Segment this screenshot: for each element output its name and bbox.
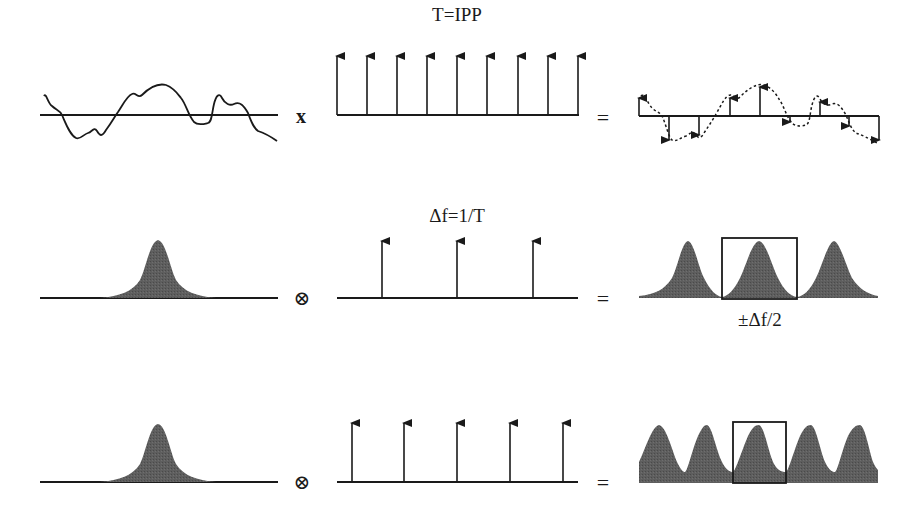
row1-input-signal (40, 84, 278, 141)
equals-operator: = (597, 286, 609, 312)
row1-pulse-train (337, 56, 579, 115)
frequency-spacing-label: Δf=1/T (429, 205, 485, 227)
row1-dashed-signal (641, 85, 877, 143)
row1-signal-curve (44, 84, 277, 141)
convolve-operator-icon: ⊗ (294, 470, 311, 494)
row2-input-spectrum (40, 240, 278, 298)
row2-replicated-spectra (639, 238, 878, 299)
equals-operator: = (597, 105, 609, 131)
row3-spectral-comb (337, 423, 578, 482)
diagram-canvas (0, 0, 911, 511)
pulse-period-label: T=IPP (432, 4, 482, 26)
row3-spectra-fill (639, 425, 878, 483)
row2-spectral-comb (337, 241, 578, 298)
nyquist-interval-label: ±Δf/2 (738, 309, 782, 331)
equals-operator: = (597, 470, 609, 496)
row1-sampled-result (639, 85, 879, 143)
row3-spectrum-peak (100, 424, 216, 482)
multiply-operator: x (296, 105, 306, 128)
row2-spectra-fill (639, 241, 878, 298)
convolve-operator-icon: ⊗ (294, 286, 311, 310)
row3-input-spectrum (40, 424, 278, 482)
row2-spectrum-peak (100, 240, 216, 298)
row3-aliased-spectra (639, 422, 878, 483)
